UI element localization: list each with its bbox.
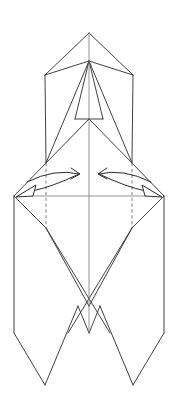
origami-figure [0,0,178,403]
origami-diagram-root: Origami folding step [0,0,178,403]
